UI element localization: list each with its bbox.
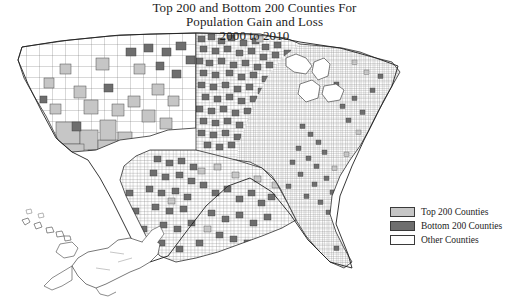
legend-item-bottom-200: Bottom 200 Counties: [390, 219, 508, 233]
legend-item-top-200: Top 200 Counties: [390, 205, 508, 219]
legend-swatch-other: [390, 235, 415, 245]
legend-label-top-200: Top 200 Counties: [421, 207, 488, 217]
legend-item-other: Other Counties: [390, 233, 508, 247]
legend-swatch-top-200: [390, 207, 415, 217]
legend-swatch-bottom-200: [390, 221, 415, 231]
map-svg: [0, 0, 509, 302]
legend-label-other: Other Counties: [421, 235, 479, 245]
map-legend: Top 200 Counties Bottom 200 Counties Oth…: [390, 205, 508, 247]
us-county-choropleth-map: [0, 0, 509, 302]
figure-container: Top 200 and Bottom 200 Counties For Popu…: [0, 0, 509, 302]
legend-label-bottom-200: Bottom 200 Counties: [421, 221, 502, 231]
